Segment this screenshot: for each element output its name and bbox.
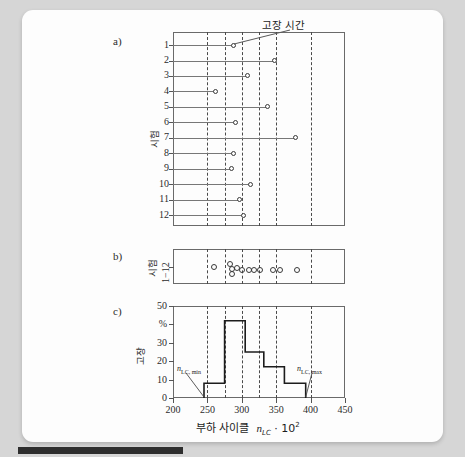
panel-c-ytick-mark xyxy=(169,324,174,325)
x-axis-label-text: 부하 사이클 xyxy=(196,422,250,435)
panel-c-y-axis-label: 고장 xyxy=(133,347,147,365)
panel-c-ytick-mark xyxy=(169,343,174,344)
panel-c-ytick-label: % xyxy=(139,318,167,329)
panel-c-xtick-label: 250 xyxy=(193,404,221,415)
panel-c-ytick-label: 0 xyxy=(139,392,167,403)
panel-c-xtick-mark xyxy=(345,398,346,403)
n-lc-max-annotation: nLC, max xyxy=(297,364,322,375)
n-lc-min-subscript: LC, min xyxy=(181,369,201,375)
panel-c-xtick-label: 300 xyxy=(228,404,256,415)
panel-c-xtick-label: 200 xyxy=(159,404,187,415)
panel-c-xtick-mark xyxy=(276,398,277,403)
panel-c-gridline-400 xyxy=(311,306,312,398)
x-axis-math-dot: · xyxy=(274,422,278,435)
panel-c-x-axis-label: 부하 사이클 nLC · 102 xyxy=(196,419,300,437)
panel-c-xtick-mark xyxy=(173,398,174,403)
panel-c-ytick-label: 10 xyxy=(139,374,167,385)
x-axis-math-lc: LC xyxy=(262,429,271,437)
n-lc-max-subscript: LC, max xyxy=(301,369,322,375)
panel-c-ytick-label: 50 xyxy=(139,300,167,311)
panel-c-ytick-mark xyxy=(169,361,174,362)
panel-c-gridline-350 xyxy=(276,306,277,398)
panel-c-gridline-325 xyxy=(259,306,260,398)
x-axis-math-exponent: 2 xyxy=(295,421,299,429)
panel-c: c) 50 % 30 20 10 0 고장 200 250 300 350 40… xyxy=(0,0,465,457)
panel-c-xtick-mark xyxy=(311,398,312,403)
figure-page: a) 시험 1 2 3 4 5 xyxy=(0,0,465,457)
x-axis-math-ten: 10 xyxy=(281,422,295,435)
n-lc-min-annotation: nLC, min xyxy=(177,364,201,375)
panel-c-gridline-300 xyxy=(242,306,243,398)
panel-c-xtick-mark xyxy=(242,398,243,403)
panel-c-ytick-mark xyxy=(169,306,174,307)
panel-c-gridline-275 xyxy=(225,306,226,398)
panel-c-xtick-label: 450 xyxy=(331,404,359,415)
panel-c-xtick-label: 400 xyxy=(297,404,325,415)
panel-c-xtick-mark xyxy=(207,398,208,403)
panel-c-xtick-label: 350 xyxy=(262,404,290,415)
panel-c-gridline-250 xyxy=(207,306,208,398)
panel-c-ytick-mark xyxy=(169,380,174,381)
panel-c-letter: c) xyxy=(113,305,122,317)
